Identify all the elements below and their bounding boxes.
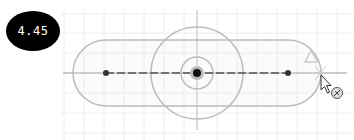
dimension-value-badge[interactable]: 4.45 (6, 11, 60, 51)
sketch-canvas[interactable]: 4.45 (0, 0, 354, 140)
left-center-point (103, 70, 109, 76)
origin-point (193, 69, 201, 77)
right-center-point (285, 70, 291, 76)
dimension-tool-icon (332, 88, 343, 99)
